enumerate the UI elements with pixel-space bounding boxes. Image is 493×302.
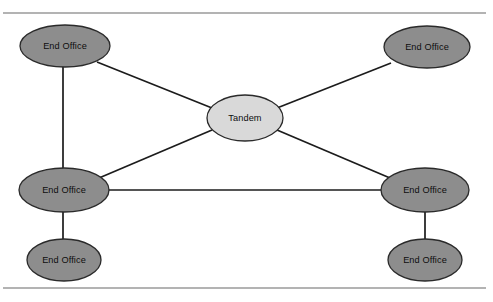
network-link-end-office-top-right-to-tandem-center[interactable] xyxy=(277,63,391,108)
network-diagram-figure: End OfficeEnd OfficeTandemEnd OfficeEnd … xyxy=(0,0,493,302)
node-end-office-top-right[interactable]: End Office xyxy=(384,26,470,68)
node-end-office-top-left[interactable]: End Office xyxy=(20,25,110,67)
network-link-end-office-mid-left-to-tandem-center[interactable] xyxy=(99,130,212,178)
node-end-office-mid-right[interactable]: End Office xyxy=(381,168,469,212)
node-tandem-center[interactable]: Tandem xyxy=(207,95,283,141)
network-link-end-office-top-left-to-tandem-center[interactable] xyxy=(97,62,212,108)
node-end-office-bottom-left[interactable]: End Office xyxy=(27,239,101,281)
end-office-shape[interactable] xyxy=(19,168,109,212)
network-link-end-office-mid-right-to-tandem-center[interactable] xyxy=(277,130,390,178)
end-office-shape[interactable] xyxy=(381,168,469,212)
end-office-shape[interactable] xyxy=(384,26,470,68)
node-end-office-bottom-right[interactable]: End Office xyxy=(388,239,462,281)
network-edges-group xyxy=(63,62,425,240)
end-office-shape[interactable] xyxy=(388,239,462,281)
tandem-switch-shape[interactable] xyxy=(207,95,283,141)
network-diagram-canvas: End OfficeEnd OfficeTandemEnd OfficeEnd … xyxy=(0,0,493,302)
network-nodes-group: End OfficeEnd OfficeTandemEnd OfficeEnd … xyxy=(19,25,470,281)
end-office-shape[interactable] xyxy=(20,25,110,67)
node-end-office-mid-left[interactable]: End Office xyxy=(19,168,109,212)
end-office-shape[interactable] xyxy=(27,239,101,281)
